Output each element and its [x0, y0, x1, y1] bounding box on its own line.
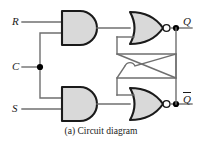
- figure-caption: (a) Circuit diagram: [0, 126, 202, 136]
- nor-gate-bottom: [130, 88, 163, 120]
- wire-c-to-and-top: [40, 33, 62, 67]
- nor-gate-top: [130, 12, 163, 44]
- and-gate-top: [62, 11, 97, 45]
- input-label-r: R: [12, 16, 19, 27]
- nor-top-output-bubble: [163, 25, 170, 32]
- junction-c-fanout: [37, 64, 43, 70]
- output-label-q: Q: [183, 16, 191, 27]
- figure-container: R C S Q Q (a) Circuit diagram: [0, 0, 202, 148]
- input-label-c: C: [12, 61, 19, 72]
- wire-crossover-lower-left: [117, 66, 125, 78]
- output-label-q-bar-text: Q: [183, 92, 191, 105]
- wire-hop-icon: [125, 63, 135, 66]
- output-label-q-bar: Q: [183, 92, 191, 105]
- and-gate-bottom: [62, 87, 97, 121]
- wire-c-to-and-bottom: [40, 67, 62, 98]
- input-label-s: S: [12, 103, 18, 114]
- nor-bottom-output-bubble: [163, 101, 170, 108]
